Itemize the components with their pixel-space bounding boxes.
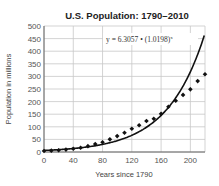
y-axis-label: Population in millions (4, 54, 13, 125)
y-tick-label: 450 (28, 35, 42, 44)
x-tick-label: 40 (69, 156, 78, 165)
x-axis-ticks: 04080120160200 (42, 156, 198, 165)
y-tick-label: 300 (28, 72, 42, 81)
data-point-diamond (122, 130, 127, 135)
y-tick-label: 100 (28, 123, 42, 132)
data-point-diamond (115, 134, 120, 139)
data-point-diamond (195, 79, 200, 84)
y-tick-label: 250 (28, 85, 42, 94)
data-point-diamond (188, 87, 193, 92)
data-point-diamond (78, 145, 83, 150)
data-point-diamond (108, 137, 113, 142)
data-point-diamond (144, 119, 149, 124)
data-points (42, 72, 208, 153)
data-point-diamond (42, 149, 47, 154)
chart-title: U.S. Population: 1790–2010 (65, 10, 189, 21)
data-point-diamond (159, 112, 164, 117)
x-axis-label: Years since 1790 (95, 170, 152, 179)
x-tick-label: 160 (154, 156, 168, 165)
y-tick-label: 400 (28, 47, 42, 56)
y-axis-ticks: 050100150200250300350400450500 (28, 22, 42, 157)
y-tick-label: 50 (32, 135, 41, 144)
x-tick-label: 120 (125, 156, 139, 165)
x-tick-label: 80 (98, 156, 107, 165)
data-point-diamond (181, 93, 186, 98)
data-point-diamond (64, 147, 69, 152)
data-point-diamond (203, 72, 208, 77)
x-tick-label: 200 (184, 156, 198, 165)
equation-label: y = 6.3057 • (1.0198)x (106, 35, 173, 44)
x-tick-label: 0 (42, 156, 47, 165)
y-tick-label: 150 (28, 110, 42, 119)
data-point-diamond (71, 146, 76, 151)
population-chart: U.S. Population: 1790–2010 0501001502002… (0, 0, 219, 186)
y-tick-label: 200 (28, 98, 42, 107)
y-tick-label: 500 (28, 22, 42, 31)
y-tick-label: 350 (28, 60, 42, 69)
